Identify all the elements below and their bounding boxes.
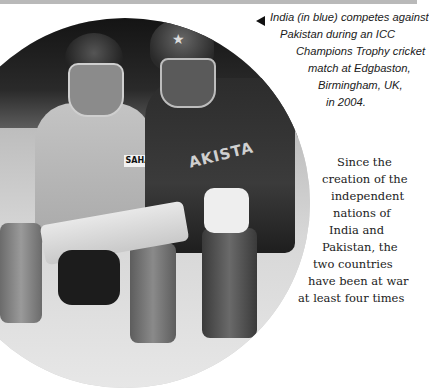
body-line: Since the: [337, 154, 392, 171]
body-line: independent: [331, 188, 404, 205]
body-line: at least four times: [298, 290, 404, 307]
body-line: two countries: [313, 256, 393, 273]
body-line: India and: [329, 222, 384, 239]
body-line: Pakistan, the: [322, 239, 398, 256]
body-line: creation of the: [322, 171, 408, 188]
body-line: nations of: [333, 205, 391, 222]
body-line: have been at war: [308, 273, 409, 290]
